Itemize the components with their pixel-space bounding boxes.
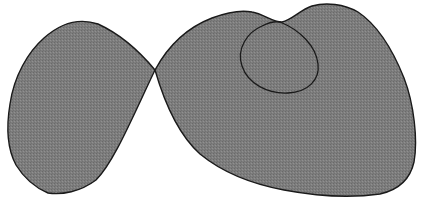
right-lobe	[155, 4, 416, 196]
diagram-canvas	[0, 0, 424, 197]
figure-eight-diagram	[0, 0, 424, 197]
left-lobe	[8, 21, 155, 193]
